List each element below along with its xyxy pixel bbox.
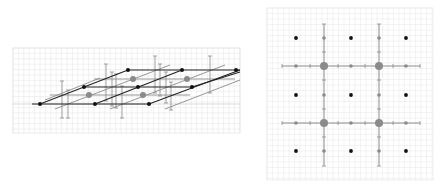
gray-small-point [377,93,381,97]
black-point [294,149,298,153]
black-point [38,102,42,106]
black-point [136,85,140,89]
gray-small-point [377,149,381,153]
black-point [349,93,353,97]
gray-large-point [320,119,328,127]
gray-point [130,76,136,82]
gray-small-point [294,64,298,68]
gray-small-point [294,121,298,125]
black-point [349,149,353,153]
gray-small-point [322,149,326,153]
black-point [147,102,151,106]
gray-small-point [322,36,326,40]
black-point [234,68,238,72]
gray-large-point [375,119,383,127]
gray-small-point [377,36,381,40]
gray-large-point [375,62,383,70]
gray-small-point [322,93,326,97]
gray-point [184,76,190,82]
black-point [404,93,408,97]
gray-point [140,92,146,98]
left-lattice-svg [0,0,447,188]
black-point [180,68,184,72]
black-point [404,36,408,40]
black-point [349,36,353,40]
left-oblique-diagram [0,0,447,188]
black-point [190,85,194,89]
black-point [126,68,130,72]
gray-small-point [349,64,353,68]
gray-large-point [320,62,328,70]
black-point [294,36,298,40]
black-point [82,85,86,89]
gray-small-point [349,121,353,125]
black-point [404,149,408,153]
gray-small-point [404,121,408,125]
gray-point [86,92,92,98]
black-point [294,93,298,97]
gray-small-point [404,64,408,68]
black-point [93,102,97,106]
